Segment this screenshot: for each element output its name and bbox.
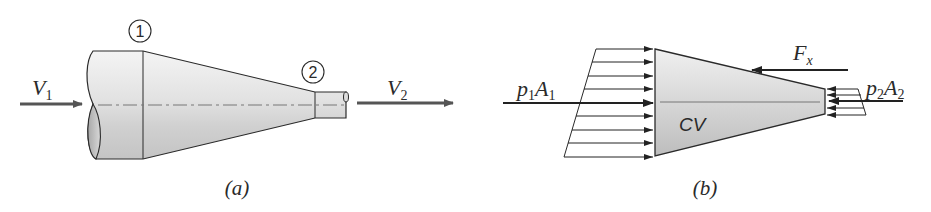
svg-text:2: 2 — [309, 64, 318, 81]
inlet-velocity-label: V1 — [32, 75, 52, 103]
outlet-pipe-end — [344, 92, 349, 102]
caption-b: (b) — [693, 176, 718, 200]
figure-a: 1 2 V1 V2 (a) — [20, 20, 453, 200]
svg-text:1: 1 — [136, 23, 145, 40]
diagram-canvas: 1 2 V1 V2 (a) CV — [0, 0, 931, 212]
outlet-force-label: p2A2 — [864, 75, 904, 102]
section-1-marker: 1 — [129, 20, 151, 42]
outlet-velocity-label: V2 — [387, 75, 407, 103]
figure-b: CV p1A1 Fx — [503, 40, 904, 200]
inlet-force-label: p1A1 — [515, 76, 555, 103]
caption-a: (a) — [225, 176, 250, 200]
section-2-marker: 2 — [302, 61, 324, 83]
reaction-force-label: Fx — [792, 40, 813, 68]
cv-label: CV — [679, 114, 708, 135]
